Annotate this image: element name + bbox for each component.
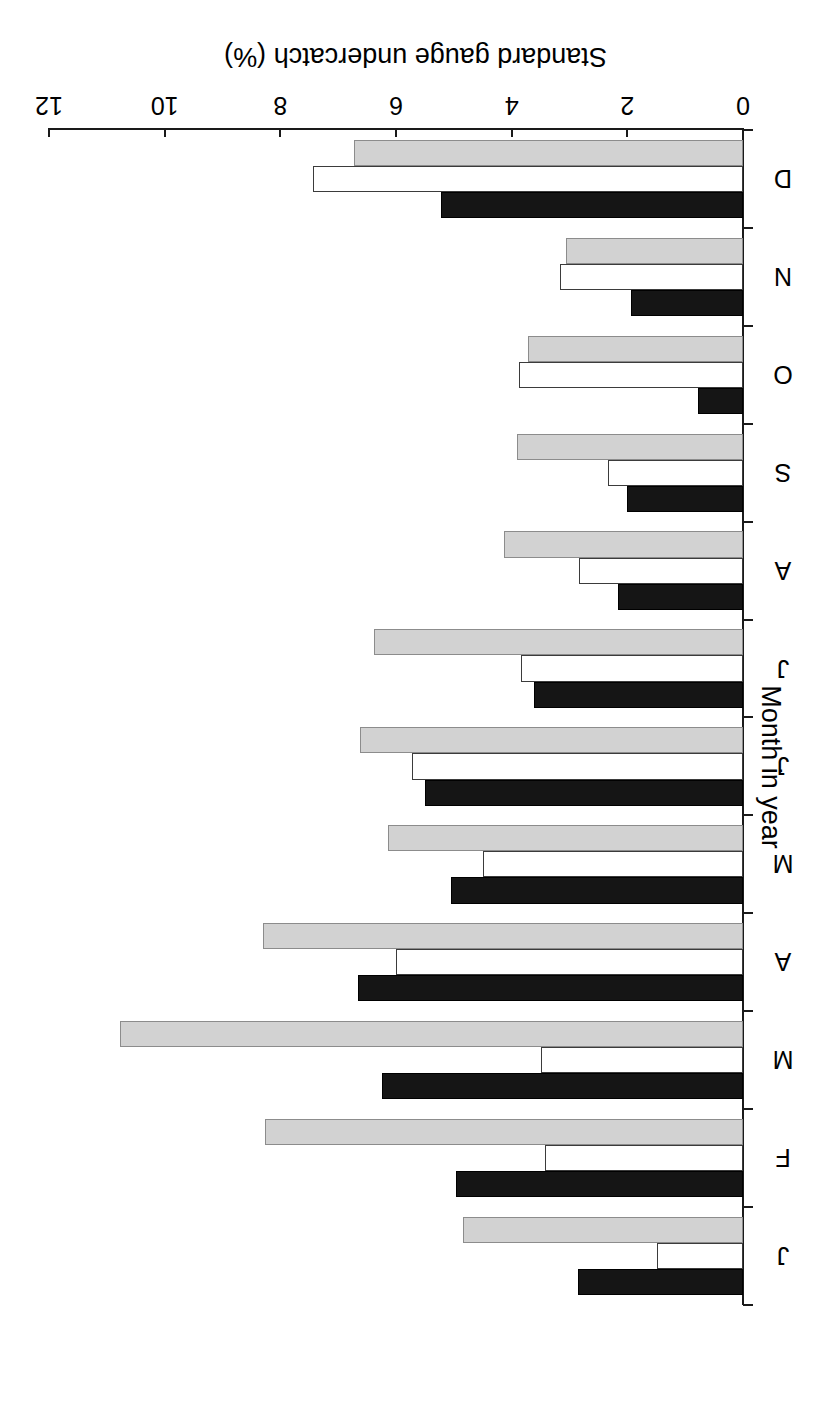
value-axis-tick-label: 6 — [366, 91, 426, 121]
value-axis-tick-label: 0 — [713, 91, 773, 121]
category-axis-tick — [743, 521, 753, 523]
category-axis-tick — [743, 912, 753, 914]
bar-black-j-5 — [426, 780, 744, 806]
value-axis-tick — [626, 128, 628, 137]
value-axis-tick — [395, 128, 397, 137]
bar-black-j-0 — [578, 1269, 743, 1295]
bar-white-a-3 — [396, 949, 743, 975]
bar-white-j-6 — [521, 656, 743, 682]
category-axis-tick — [743, 1010, 753, 1012]
category-axis-tick — [743, 325, 753, 327]
bar-black-n-10 — [631, 290, 743, 316]
value-axis-tick — [48, 128, 50, 137]
category-axis-tick — [743, 717, 753, 719]
bar-black-m-4 — [451, 877, 743, 903]
bar-white-n-10 — [560, 264, 743, 290]
bar-gray-j-5 — [360, 727, 743, 753]
bar-black-j-6 — [534, 682, 743, 708]
bar-black-f-1 — [456, 1171, 743, 1197]
bar-gray-o-9 — [528, 336, 743, 362]
category-axis-tick — [743, 227, 753, 229]
bar-black-s-8 — [627, 486, 743, 512]
bar-gray-j-6 — [374, 629, 743, 655]
category-axis-tick-label: S — [759, 458, 807, 488]
category-axis-tick-label: J — [759, 1241, 807, 1271]
value-axis-tick-label: 12 — [19, 91, 79, 121]
category-axis-tick — [743, 1206, 753, 1208]
category-axis-tick-label: F — [759, 1143, 807, 1173]
category-axis-tick-label: M — [759, 1045, 807, 1075]
value-axis-tick-label: 2 — [597, 91, 657, 121]
value-axis-tick-label: 4 — [482, 91, 542, 121]
category-axis-tick — [743, 1304, 753, 1306]
bar-black-d-11 — [441, 192, 743, 218]
bar-white-a-7 — [579, 558, 743, 584]
bar-black-o-9 — [698, 388, 743, 414]
value-axis-tick-label: 10 — [135, 91, 195, 121]
category-axis-tick-label: N — [759, 262, 807, 292]
value-axis-title: Standard gauge undercatch (%) — [0, 41, 831, 73]
bar-gray-j-0 — [463, 1217, 743, 1243]
bar-gray-m-4 — [388, 825, 743, 851]
bar-black-a-7 — [618, 584, 743, 610]
bar-white-o-9 — [519, 362, 743, 388]
bar-gray-n-10 — [566, 238, 743, 264]
value-axis-tick — [279, 128, 281, 137]
category-axis-tick-label: O — [759, 360, 807, 390]
category-axis-tick — [743, 129, 753, 131]
bar-gray-a-7 — [504, 531, 743, 557]
category-axis-tick — [743, 814, 753, 816]
category-axis-tick — [743, 1108, 753, 1110]
bar-white-f-1 — [545, 1145, 743, 1171]
bar-black-a-3 — [358, 975, 743, 1001]
category-axis-tick-label: D — [759, 164, 807, 194]
bar-white-d-11 — [313, 166, 743, 192]
bar-white-s-8 — [608, 460, 743, 486]
bar-chart-figure: 024681012 JFMAMJJASOND Standard gauge un… — [0, 0, 831, 1423]
value-axis-tick-label: 8 — [250, 91, 310, 121]
bar-gray-m-2 — [120, 1021, 743, 1047]
value-axis-tick — [511, 128, 513, 137]
value-axis-tick — [164, 128, 166, 137]
category-axis-tick — [743, 423, 753, 425]
bar-gray-s-8 — [517, 434, 743, 460]
category-axis-title: Month in year — [755, 567, 787, 967]
bar-white-j-0 — [657, 1243, 743, 1269]
bar-gray-a-3 — [263, 923, 743, 949]
bar-white-m-2 — [541, 1047, 743, 1073]
rotated-figure-wrapper: 024681012 JFMAMJJASOND Standard gauge un… — [0, 0, 831, 1423]
bar-white-j-5 — [412, 753, 743, 779]
bar-gray-d-11 — [354, 140, 743, 166]
bar-white-m-4 — [483, 851, 743, 877]
bar-black-m-2 — [382, 1073, 743, 1099]
bar-gray-f-1 — [265, 1119, 743, 1145]
category-axis-tick — [743, 619, 753, 621]
